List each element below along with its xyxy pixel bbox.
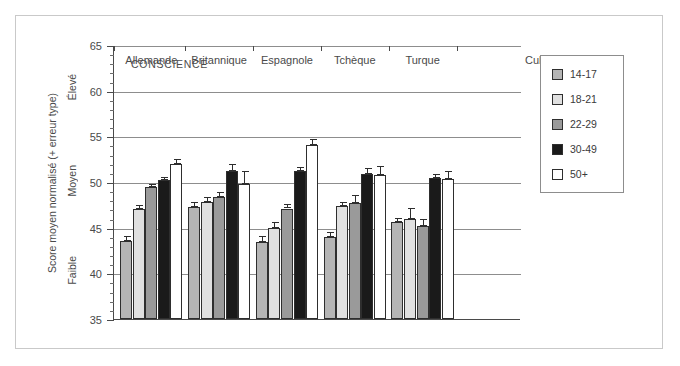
bar [429,178,441,319]
y-tick-minor [110,220,114,221]
bar [306,145,318,319]
bar [349,203,361,319]
legend-swatch [552,169,563,180]
x-axis-label: Turque [405,54,439,66]
bar-group [391,45,453,319]
bar [145,187,157,319]
y-tick-major [107,137,114,138]
chart-page: Score moyen normalisé (+ erreur type) CO… [0,0,680,366]
y-tick-label: 50 [90,177,102,189]
x-axis-label: Tchèque [334,54,376,66]
y-tick-minor [110,293,114,294]
x-axis-label: Espagnole [261,54,313,66]
y-axis-band-label: Élevé [66,74,78,100]
y-tick-label: 65 [90,40,102,52]
bar [158,180,170,319]
bar [374,175,386,319]
legend-label: 14-17 [570,68,597,80]
y-tick-minor [110,156,114,157]
bar-group [120,45,182,319]
legend-swatch [552,69,563,80]
bar [133,209,145,319]
y-tick-minor [110,73,114,74]
legend-swatch [552,94,563,105]
error-bar [330,232,331,237]
legend-label: 18-21 [570,93,597,105]
bar-group [324,45,386,319]
bar [361,174,373,319]
x-tick [114,46,115,51]
y-tick-major [107,46,114,47]
error-bar [126,236,127,241]
y-tick-minor [110,174,114,175]
error-bar [164,177,165,181]
y-axis-band-label: Faible [66,256,78,285]
y-tick-minor [110,302,114,303]
error-bar [287,204,288,209]
bar [268,228,280,319]
x-tick [457,46,458,51]
bar-group [188,45,250,319]
error-bar [367,168,368,173]
bar [213,197,225,319]
y-tick-label: 35 [90,314,102,326]
error-bar [435,174,436,178]
error-bar [176,159,177,164]
error-bar [312,139,313,146]
x-tick [253,46,254,51]
y-tick-minor [110,283,114,284]
error-bar [139,205,140,209]
bar [281,209,293,320]
error-bar [207,197,208,202]
error-bar [151,184,152,188]
y-tick-minor [110,101,114,102]
y-tick-minor [110,128,114,129]
legend-swatch [552,119,563,130]
error-bar [355,195,356,203]
bar [324,237,336,319]
legend-swatch [552,144,563,155]
legend: 14-1718-2122-2930-4950+ [540,55,624,193]
y-tick-label: 55 [90,131,102,143]
x-tick [185,46,186,51]
y-tick-major [107,229,114,230]
y-tick-minor [110,119,114,120]
bar [336,206,348,319]
error-bar [194,202,195,207]
y-tick-minor [110,238,114,239]
bar [201,202,213,319]
legend-label: 22-29 [570,118,597,130]
error-bar [219,192,220,197]
y-tick-minor [110,192,114,193]
x-axis-label: Allemande [125,54,177,66]
y-tick-major [107,320,114,321]
error-bar [380,166,381,175]
bar [120,241,132,319]
legend-item: 30-49 [552,143,613,155]
bar [442,179,454,319]
y-tick-major [107,274,114,275]
error-bar [262,236,263,242]
y-tick-minor [110,201,114,202]
bar [417,226,429,319]
y-tick-minor [110,83,114,84]
error-bar [232,164,233,171]
bar [294,171,306,319]
y-tick-minor [110,110,114,111]
bar [188,207,200,319]
y-tick-minor [110,165,114,166]
y-tick-label: 60 [90,86,102,98]
bar [391,222,403,319]
x-tick [321,46,322,51]
y-tick-minor [110,55,114,56]
legend-item: 22-29 [552,118,613,130]
x-tick [389,46,390,51]
y-tick-minor [110,311,114,312]
error-bar [244,171,245,183]
bar-group [256,45,318,319]
error-bar [274,222,275,227]
y-tick-minor [110,64,114,65]
y-tick-label: 45 [90,223,102,235]
bar [256,242,268,319]
y-tick-label: 40 [90,268,102,280]
